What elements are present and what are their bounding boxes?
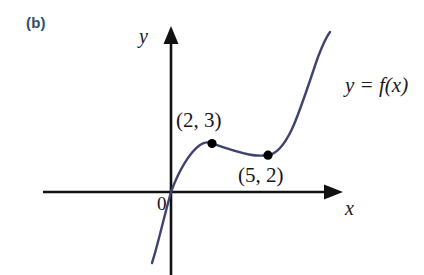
origin-label: 0	[157, 194, 167, 213]
y-axis-label: y	[139, 26, 148, 46]
x-axis-arrowhead	[324, 185, 343, 200]
graph-canvas	[0, 0, 424, 275]
x-axis-label: x	[345, 198, 354, 218]
figure-panel: (b) y x y = f(x) (2, 3) (5, 2) 0	[0, 0, 424, 275]
function-curve	[152, 32, 330, 263]
point-marker-b	[263, 151, 272, 160]
point-marker-a	[207, 139, 216, 148]
point-label-a: (2, 3)	[176, 110, 222, 131]
y-axis-arrowhead	[164, 26, 179, 44]
function-label: y = f(x)	[345, 75, 408, 96]
point-label-b: (5, 2)	[238, 165, 284, 186]
